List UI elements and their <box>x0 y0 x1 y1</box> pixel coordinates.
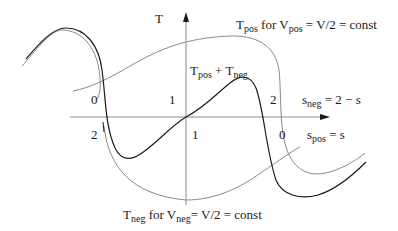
t-pos-main: T <box>236 17 244 32</box>
t-axis-arrow-icon <box>183 12 189 22</box>
t-axis-label: T <box>155 12 163 25</box>
tick-upper-0: 0 <box>91 93 98 106</box>
sum-curve <box>26 28 366 197</box>
t-pos-tail: = V/2 = const <box>303 17 377 32</box>
t-neg-tail: = V/2 = const <box>191 207 262 222</box>
s-pos-tail: = s <box>326 127 345 142</box>
diagram-canvas: T Tpos for Vpos = V/2 = const Tpos + Tne… <box>0 0 398 231</box>
t-neg-main: T <box>123 207 131 222</box>
tick-upper-2: 2 <box>270 93 277 106</box>
t-neg-mid: for V <box>145 207 176 222</box>
s-neg-tail: = 2 − s <box>322 92 361 107</box>
diagram-svg <box>0 0 398 231</box>
s-neg-sub: neg <box>307 98 321 109</box>
sum-op: + T <box>212 63 234 78</box>
t-neg-mid-sub: neg <box>176 213 190 224</box>
t-pos-sub: pos <box>244 23 258 34</box>
tick-upper-1: 1 <box>169 93 176 106</box>
s-axis-arrow-icon <box>320 114 330 120</box>
t-pos-mid: for V <box>258 17 289 32</box>
tick-lower-0: 0 <box>279 128 286 141</box>
tick-lower-2: 2 <box>91 128 98 141</box>
t-neg-curve <box>104 126 300 200</box>
s-neg-label: sneg = 2 − s <box>302 93 361 109</box>
tick-lower-1: 1 <box>192 128 199 141</box>
t-neg-sub: neg <box>131 213 145 224</box>
t-pos-curve-label: Tpos for Vpos = V/2 = const <box>236 18 377 34</box>
t-neg-tick <box>103 122 104 132</box>
t-neg-curve-label: Tneg for Vneg= V/2 = const <box>123 208 262 224</box>
sum-a-sub: pos <box>198 69 212 80</box>
s-pos-label: spos = s <box>307 128 345 144</box>
sum-curve-label: Tpos + Tneg <box>190 64 248 80</box>
sum-b-sub: neg <box>233 69 247 80</box>
sum-a: T <box>190 63 198 78</box>
s-pos-sub: pos <box>312 133 326 144</box>
t-pos-mid-sub: pos <box>289 23 303 34</box>
